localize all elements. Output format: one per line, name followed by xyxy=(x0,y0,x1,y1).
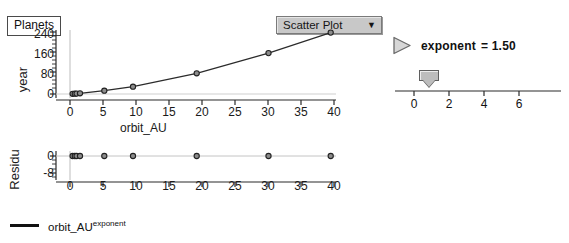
slider-value: 1.50 xyxy=(492,39,516,53)
slider-tick-labels: 0 2 4 6 xyxy=(394,98,562,112)
x-tick-label: 5 xyxy=(91,106,115,118)
legend: orbit_AUexponent xyxy=(10,219,126,233)
slider-tick-label: 2 xyxy=(437,98,461,110)
y-tick-label: 0 xyxy=(47,150,54,162)
x-tick-label: 15 xyxy=(157,180,181,192)
x-tick-label: 40 xyxy=(322,106,346,118)
x-tick-label: 20 xyxy=(190,180,214,192)
x-tick-label: 25 xyxy=(223,106,247,118)
slider-caption: exponent= 1.50 xyxy=(421,39,516,53)
slider-tick-label: 0 xyxy=(402,98,426,110)
x-tick-label: 10 xyxy=(124,180,148,192)
x-tick-label: 25 xyxy=(223,180,247,192)
exponent-slider-panel[interactable]: exponent= 1.50 0 2 xyxy=(392,36,564,114)
play-triangle-icon[interactable] xyxy=(392,36,412,55)
y-tick-label: 240 xyxy=(34,28,54,40)
x-tick-label: 20 xyxy=(190,106,214,118)
residual-plot-y-ticks: 0 -8 xyxy=(22,148,54,182)
residual-plot[interactable]: Residu 0 -8 xyxy=(0,148,340,208)
slider-header: exponent= 1.50 xyxy=(392,36,516,55)
x-tick-label: 40 xyxy=(322,180,346,192)
main-plot-y-ticks: 240 160 80 0 xyxy=(22,28,54,108)
y-tick-label: 80 xyxy=(41,68,54,80)
slider-variable-name: exponent xyxy=(421,39,476,53)
slider-thumb-pointer xyxy=(423,80,435,87)
x-tick-label: 35 xyxy=(289,106,313,118)
x-tick-label: 0 xyxy=(58,180,82,192)
legend-line-swatch xyxy=(10,224,39,227)
main-scatter-plot[interactable]: year 240 160 80 0 xyxy=(0,28,340,146)
slider-thumb[interactable] xyxy=(419,70,439,87)
x-tick-label: 10 xyxy=(124,106,148,118)
slider-equals-sign: = xyxy=(481,39,488,53)
legend-series-exponent: exponent xyxy=(93,219,126,228)
y-tick-label: 160 xyxy=(34,48,54,60)
legend-label: orbit_AUexponent xyxy=(48,219,126,233)
x-tick-label: 15 xyxy=(157,106,181,118)
x-tick-label: 5 xyxy=(91,180,115,192)
graph-window: Planets Scatter Plot ▼ year 240 160 80 0 xyxy=(0,0,569,243)
residual-plot-x-ticks: 0 5 10 15 20 25 30 35 40 xyxy=(0,180,340,194)
chevron-down-icon: ▼ xyxy=(367,21,376,30)
main-plot-x-axis-label: orbit_AU xyxy=(120,121,167,135)
x-tick-label: 35 xyxy=(289,180,313,192)
legend-series-base: orbit_AU xyxy=(48,221,93,233)
x-tick-label: 30 xyxy=(256,180,280,192)
slider-tick-label: 6 xyxy=(507,98,531,110)
x-tick-label: 0 xyxy=(58,106,82,118)
slider-control[interactable]: 0 2 4 6 xyxy=(394,70,562,114)
x-tick-label: 30 xyxy=(256,106,280,118)
y-tick-label: 0 xyxy=(47,88,54,100)
main-plot-x-ticks: 0 5 10 15 20 25 30 35 40 xyxy=(0,106,340,120)
y-tick-label: -8 xyxy=(43,167,54,179)
slider-tick-label: 4 xyxy=(472,98,496,110)
